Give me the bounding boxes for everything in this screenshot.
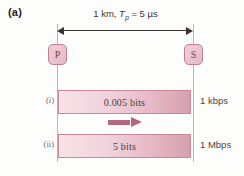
link-bar-ii-label: 5 bits [113, 141, 136, 152]
link-bar-i: 0.005 bits [58, 90, 191, 114]
arrow-shaft [61, 30, 189, 31]
node-p-label: P [55, 49, 61, 60]
flow-arrow-head [131, 117, 142, 127]
row-tag-i: (i) [34, 95, 54, 105]
flow-direction-arrow-icon [108, 117, 142, 127]
link-bar-i-label: 0.005 bits [104, 97, 145, 108]
row-tag-ii: (ii) [34, 139, 54, 149]
transmission-row-ii: (ii) 5 bits 1 Mbps [0, 134, 244, 158]
rate-label-ii: 1 Mbps [200, 139, 231, 150]
figure-propagation-delay: (a) 1 km, Tp = 5 µs P S (i) 0.005 bits 1… [0, 0, 244, 176]
node-p: P [48, 44, 67, 65]
node-s: S [184, 44, 203, 65]
distance-value: 1 km, [93, 8, 116, 19]
transmission-row-i: (i) 0.005 bits 1 kbps [0, 90, 244, 114]
figure-caption: (a) [8, 6, 22, 18]
node-s-label: S [191, 49, 197, 60]
distance-double-arrow [57, 26, 193, 35]
flow-arrow-shaft [108, 120, 130, 125]
propagation-time-subscript: p [125, 14, 129, 21]
distance-dimension-label: 1 km, Tp = 5 µs [57, 8, 194, 21]
link-bar-ii: 5 bits [58, 134, 191, 158]
rate-label-i: 1 kbps [200, 95, 228, 106]
propagation-time-value: = 5 µs [131, 8, 157, 19]
arrow-head-right-icon [186, 27, 193, 35]
